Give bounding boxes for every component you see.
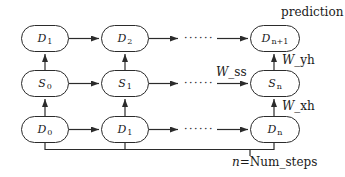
node-label-sub: n — [277, 128, 282, 137]
node-label: D — [38, 32, 47, 45]
node-label: D — [262, 32, 271, 45]
ellipsis-bottom: ······ — [184, 123, 212, 136]
node-dn-bottom: Dn — [250, 116, 300, 143]
node-s0: S0 — [21, 70, 69, 97]
w-ss-label: W_ss — [216, 66, 247, 79]
node-label-sub: 2 — [127, 37, 132, 46]
node-label: D — [118, 32, 127, 45]
w-xh-var: W — [282, 99, 294, 113]
bottom-bus-line — [45, 143, 274, 150]
w-yh-rest: _yh — [294, 53, 315, 67]
num-steps-label: n=Num_steps — [232, 156, 317, 169]
node-d1-top: D1 — [21, 25, 69, 52]
w-xh-label: W_xh — [282, 100, 315, 113]
node-d0-bottom: D0 — [21, 116, 69, 143]
node-d2-top: D2 — [101, 25, 149, 52]
node-label: S — [38, 77, 46, 90]
w-yh-var: W — [282, 53, 294, 67]
rnn-unrolled-diagram: D1 D2 Dn+1 S0 S1 Sn D0 D1 Dn ······ ····… — [0, 0, 345, 177]
node-label: D — [268, 123, 277, 136]
ellipsis-top: ······ — [184, 32, 212, 45]
node-s1: S1 — [101, 70, 149, 97]
w-ss-rest: _ss — [228, 65, 246, 79]
node-label: S — [268, 77, 276, 90]
node-label: D — [118, 123, 127, 136]
node-sn: Sn — [250, 70, 300, 97]
w-yh-label: W_yh — [282, 54, 315, 67]
ellipsis-middle: ······ — [184, 77, 212, 90]
horizontal-arrows — [69, 39, 248, 130]
node-label-sub: 1 — [127, 82, 132, 91]
node-label: S — [118, 77, 126, 90]
node-label-sub: 1 — [127, 128, 132, 137]
node-label: D — [38, 123, 47, 136]
vertical-arrows — [45, 54, 274, 116]
node-label-sub: 1 — [47, 37, 52, 46]
node-label-sub: 0 — [47, 82, 52, 91]
num-steps-bracket — [45, 143, 274, 157]
node-dn1-top: Dn+1 — [250, 25, 300, 52]
node-label-sub: n — [277, 82, 282, 91]
w-xh-rest: _xh — [294, 99, 315, 113]
w-ss-var: W — [216, 65, 228, 79]
num-steps-var: n — [232, 155, 240, 169]
node-d1-bottom: D1 — [101, 116, 149, 143]
node-label-sub: 0 — [47, 128, 52, 137]
prediction-label: prediction — [281, 6, 343, 19]
node-label-sub: n+1 — [271, 37, 288, 46]
num-steps-rest: =Num_steps — [240, 155, 318, 169]
